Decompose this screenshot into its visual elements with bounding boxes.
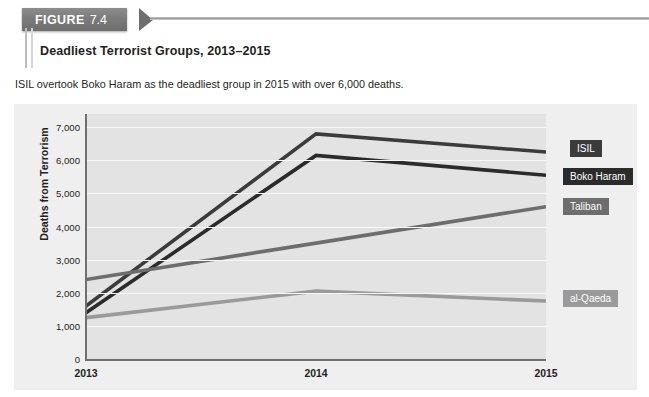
- y-axis-tick-labels: 01,0002,0003,0004,0005,0006,0007,000: [28, 114, 80, 359]
- gridline: [86, 160, 546, 161]
- x-axis-tick-label: 2013: [74, 368, 97, 379]
- plot-area: [86, 114, 546, 359]
- accent-bar-secondary: [31, 28, 33, 68]
- x-axis-tick-label: 2014: [304, 368, 327, 379]
- line-series-boko-haram: [86, 155, 546, 312]
- y-axis-tick-label: 1,000: [36, 320, 80, 331]
- x-axis-tick-label: 2015: [534, 368, 557, 379]
- legend-label-al-qaeda: al-Qaeda: [563, 290, 618, 307]
- gridline: [86, 260, 546, 261]
- legend-label-taliban: Taliban: [563, 198, 609, 215]
- gridline: [86, 193, 546, 194]
- line-series-taliban: [86, 207, 546, 280]
- line-series-group: [86, 114, 546, 359]
- line-series-al-qaeda: [86, 291, 546, 317]
- gridline: [86, 227, 546, 228]
- y-axis-tick-label: 2,000: [36, 287, 80, 298]
- figure-subtitle: ISIL overtook Boko Haram as the deadlies…: [15, 78, 404, 90]
- accent-bar-primary: [25, 28, 27, 68]
- gridline: [86, 326, 546, 327]
- page-title: Deadliest Terrorist Groups, 2013–2015: [40, 44, 271, 58]
- figure-label-word: FIGURE: [35, 13, 85, 27]
- chart-container: 01,0002,0003,0004,0005,0006,0007,000 Dea…: [14, 104, 637, 390]
- figure-label-number: 7.4: [90, 13, 107, 27]
- y-axis-title: Deaths from Terrorism: [38, 104, 50, 264]
- header-divider-rule: [150, 17, 649, 20]
- y-axis-tick-label: 0: [36, 354, 80, 365]
- figure-header: FIGURE 7.4: [0, 4, 649, 32]
- gridline: [86, 293, 546, 294]
- gridline: [86, 127, 546, 128]
- x-axis-line: [85, 359, 546, 361]
- figure-number-tab: FIGURE 7.4: [22, 8, 127, 31]
- legend-label-boko-haram: Boko Haram: [563, 168, 633, 185]
- legend-label-isil: ISIL: [570, 140, 602, 157]
- left-accent-bars: [25, 28, 35, 68]
- y-axis-line: [85, 114, 87, 360]
